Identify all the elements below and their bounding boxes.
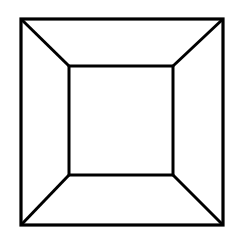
- frustum-diagram: [0, 0, 232, 237]
- diagonal-top-left: [21, 19, 69, 66]
- inner-square: [69, 66, 173, 175]
- diagonal-top-right: [173, 19, 223, 66]
- diagonal-bottom-left: [21, 175, 69, 225]
- diagonal-bottom-right: [173, 175, 223, 225]
